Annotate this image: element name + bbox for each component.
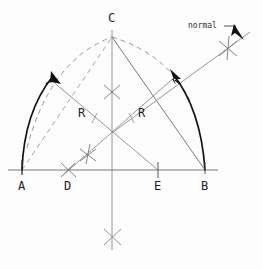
label-normal: normal [188,21,217,30]
radius-line-left [51,80,158,170]
dashed-arc-a-to-c [27,37,112,148]
label-point-b: B [201,179,209,193]
solid-arc-left [22,76,53,170]
cross-bisector-lower [104,229,121,245]
arrowhead-left-arc [50,71,61,84]
label-radius-left: R [78,106,86,120]
label-point-d: D [64,179,72,193]
cross-near-d-upper [80,144,96,164]
label-radius-right: R [138,106,146,120]
radius-line-right [62,76,176,176]
label-point-a: A [18,179,26,193]
solid-arc-right [173,74,205,170]
label-point-c: C [108,11,116,25]
geometric-construction-figure: A D E B C R R normal [0,0,263,269]
cross-on-normal [219,36,237,60]
label-point-e: E [154,179,162,193]
construction-canvas: A D E B C R R normal [0,0,263,269]
